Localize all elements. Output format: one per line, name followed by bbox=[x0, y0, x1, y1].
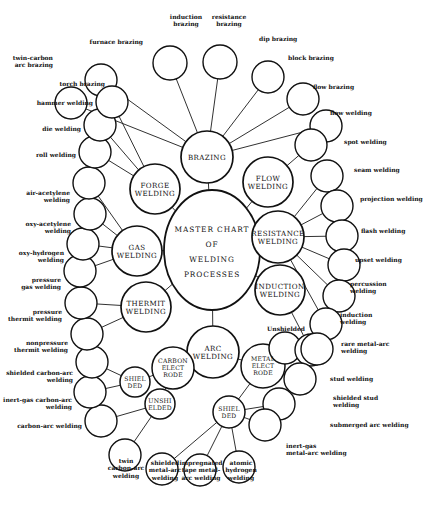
node-leaf-shielded-carbon-arc[interactable] bbox=[76, 346, 108, 378]
node-sub-label-carbon-electrode: RODE bbox=[163, 371, 183, 378]
leaf-label-furnace-brazing: furnace brazing bbox=[90, 38, 144, 46]
node-leaf-inert-gas-carbon-arc[interactable] bbox=[74, 376, 106, 408]
welding-processes-diagram: MASTER CHARTOFWELDINGPROCESSESBRAZINGFLO… bbox=[0, 0, 424, 517]
node-sub-caption-unshielded-metal: Unshielded bbox=[267, 325, 306, 332]
leaf-label-rare-metal-arc-welding: welding bbox=[340, 347, 368, 355]
leaf-label-hammer-welding: hammer welding bbox=[37, 99, 94, 107]
leaf-label-atomic-hydrogen-welding: welding bbox=[227, 474, 255, 482]
leaf-label-twin-carbon-arc-welding: twin bbox=[119, 457, 134, 464]
node-sub-label-shielded-metal: DED bbox=[222, 412, 237, 419]
leaf-label-air-acetylene-welding: welding bbox=[43, 196, 71, 204]
leaf-label-shielded-carbon-arc: welding bbox=[46, 376, 74, 384]
leaf-label-twin-carbon-arc-brazing: twin-carbon bbox=[13, 54, 54, 61]
node-leaf-flash-welding[interactable] bbox=[328, 249, 360, 281]
leaf-label-shielded-metal-arc: shielded bbox=[151, 459, 180, 466]
leaf-label-projection-welding: projection welding bbox=[360, 195, 424, 203]
node-leaf-oxy-hydrogen-welding[interactable] bbox=[67, 228, 99, 260]
leaf-label-seam-welding: seam welding bbox=[354, 166, 401, 174]
leaf-label-oxy-hydrogen-welding: welding bbox=[37, 256, 65, 264]
node-hub-label-arc: WELDING bbox=[193, 352, 233, 361]
leaf-label-atomic-hydrogen-welding: atomic bbox=[230, 459, 253, 466]
leaf-label-inert-gas-metal-arc: metal-arc welding bbox=[286, 449, 347, 457]
leaf-label-twin-carbon-arc-welding: welding bbox=[112, 472, 140, 480]
node-hub-label-gas: WELDING bbox=[117, 251, 157, 260]
node-center-label-center: WELDING bbox=[189, 255, 234, 264]
leaf-label-induction-brazing: induction bbox=[170, 13, 203, 20]
node-leaf-oxy-acetylene-welding[interactable] bbox=[74, 198, 106, 230]
node-sub-label-unshielded-carbon: UNSHI bbox=[148, 397, 172, 404]
leaf-label-flow-brazing: flow brazing bbox=[313, 83, 355, 91]
node-sub-label-shielded-metal: SHIEL bbox=[218, 405, 239, 412]
node-leaf-seam-welding[interactable] bbox=[321, 190, 353, 222]
leaf-label-induction-welding: welding bbox=[339, 318, 367, 326]
node-leaf-spot-welding[interactable] bbox=[311, 160, 343, 192]
leaf-label-roll-welding: roll welding bbox=[36, 151, 77, 159]
leaf-label-rare-metal-arc-welding: rare metal-arc bbox=[341, 340, 390, 347]
leaf-label-carbon-arc-welding: carbon-arc welding bbox=[17, 422, 83, 430]
leaf-label-pressure-gas-welding: gas welding bbox=[21, 283, 62, 291]
node-leaf-resistance-brazing[interactable] bbox=[203, 45, 237, 79]
node-center-label-center: PROCESSES bbox=[184, 270, 240, 279]
leaf-label-twin-carbon-arc-welding: carbon-arc bbox=[108, 464, 145, 471]
node-sub-label-metal-electrode: METAL bbox=[251, 355, 275, 362]
leaf-label-submerged-arc-welding: submerged arc welding bbox=[330, 421, 409, 429]
leaf-label-percussion-welding: welding bbox=[349, 287, 377, 295]
node-sub-label-metal-electrode: ELECT bbox=[252, 362, 275, 369]
leaf-label-resistance-brazing: brazing bbox=[216, 20, 242, 28]
leaf-label-inert-gas-carbon-arc: welding bbox=[45, 403, 73, 411]
leaf-label-oxy-acetylene-welding: welding bbox=[44, 227, 72, 235]
node-leaf-induction-brazing[interactable] bbox=[153, 46, 187, 80]
node-sub-label-metal-electrode: RODE bbox=[253, 369, 273, 376]
node-leaf-hammer-welding[interactable] bbox=[96, 86, 128, 118]
node-hub-label-thermit: WELDING bbox=[126, 307, 166, 316]
node-leaf-carbon-arc-welding[interactable] bbox=[85, 405, 117, 437]
node-sub-label-shielded-carbon: SHIEL bbox=[124, 375, 145, 382]
leaf-label-induction-brazing: brazing bbox=[173, 20, 199, 28]
leaf-label-dip-brazing: dip brazing bbox=[259, 35, 298, 43]
node-leaf-submerged-arc-welding[interactable] bbox=[249, 409, 281, 441]
leaf-label-flash-welding: flash welding bbox=[361, 227, 406, 235]
node-hub-label-resistance: WELDING bbox=[258, 237, 298, 246]
node-leaf-rare-metal-arc-welding[interactable] bbox=[301, 333, 333, 365]
leaf-label-torch-brazing: torch brazing bbox=[59, 80, 105, 88]
leaf-label-spot-welding: spot welding bbox=[344, 138, 388, 146]
node-leaf-nonpressure-thermit[interactable] bbox=[71, 318, 103, 350]
node-center-center[interactable] bbox=[164, 190, 260, 310]
leaf-label-nonpressure-thermit: thermit welding bbox=[14, 346, 69, 354]
node-sub-label-unshielded-carbon: ELDED bbox=[148, 404, 172, 411]
leaf-label-shielded-metal-arc: metal-arc bbox=[149, 466, 182, 473]
node-leaf-projection-welding[interactable] bbox=[326, 220, 358, 252]
leaf-label-die-welding: die welding bbox=[42, 125, 81, 133]
leaf-label-shielded-stud-welding: welding bbox=[332, 401, 360, 409]
leaf-label-twin-carbon-arc-brazing: arc brazing bbox=[15, 61, 54, 69]
node-leaf-dip-brazing[interactable] bbox=[252, 61, 284, 93]
diagram-canvas: MASTER CHARTOFWELDINGPROCESSESBRAZINGFLO… bbox=[0, 0, 424, 517]
node-leaf-stud-welding[interactable] bbox=[284, 363, 316, 395]
leaf-label-stud-welding: stud welding bbox=[330, 375, 374, 383]
leaf-label-impregnated-tape: arc welding bbox=[181, 474, 221, 482]
leaf-label-resistance-brazing: resistance bbox=[212, 13, 247, 20]
leaf-label-pressure-thermit: thermit welding bbox=[8, 315, 63, 323]
node-sub-label-carbon-electrode: ELECT bbox=[162, 364, 185, 371]
node-sub-label-carbon-electrode: CARBON bbox=[158, 357, 188, 364]
leaf-label-shielded-stud-welding: shielded stud bbox=[333, 394, 379, 401]
node-leaf-pressure-thermit[interactable] bbox=[65, 287, 97, 319]
leaf-label-block-brazing: block brazing bbox=[288, 54, 335, 62]
node-leaf-flow-welding[interactable] bbox=[295, 129, 327, 161]
node-center-label-center: OF bbox=[206, 240, 219, 249]
leaf-label-shielded-metal-arc: welding bbox=[151, 474, 179, 482]
node-hub-label-induction: WELDING bbox=[260, 290, 300, 299]
node-center-label-center: MASTER CHART bbox=[175, 225, 250, 234]
leaf-label-induction-welding: induction bbox=[340, 311, 373, 318]
leaf-label-shielded-carbon-arc: shielded carbon-arc bbox=[6, 369, 73, 376]
node-sub-label-shielded-carbon: DED bbox=[128, 382, 143, 389]
node-hub-label-brazing: BRAZING bbox=[188, 153, 226, 162]
node-hub-label-forge: WELDING bbox=[135, 189, 175, 198]
node-leaf-air-acetylene-welding[interactable] bbox=[73, 167, 105, 199]
leaf-label-flow-welding: flow welding bbox=[330, 109, 373, 117]
leaf-label-upset-welding: upset welding bbox=[355, 256, 403, 264]
node-hub-label-flow: WELDING bbox=[248, 182, 288, 191]
